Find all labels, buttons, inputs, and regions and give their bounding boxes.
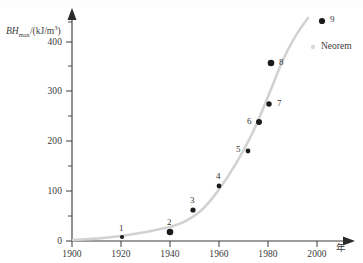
data-point-label-1: 1 <box>119 224 124 233</box>
data-point-9 <box>319 18 325 24</box>
data-point-3 <box>190 207 195 212</box>
data-point-8 <box>268 60 275 67</box>
y-axis-unit-prefix: /(kJ/m <box>30 26 54 36</box>
legend-marker-neorem <box>311 45 315 49</box>
data-point-label-8: 8 <box>279 58 284 67</box>
y-tick-label-0: 0 <box>34 236 62 246</box>
y-tick-label-200: 200 <box>34 136 62 146</box>
data-point-6 <box>256 119 262 125</box>
x-tick-label-1920: 1920 <box>105 249 137 259</box>
x-tick-label-2000: 2000 <box>301 249 333 259</box>
x-tick-label-1940: 1940 <box>154 249 186 259</box>
data-point-label-7: 7 <box>277 99 282 108</box>
data-point-label-9: 9 <box>330 15 335 24</box>
y-axis-unit-suffix: ) <box>57 26 60 36</box>
data-point-label-5: 5 <box>236 145 241 154</box>
data-point-7 <box>266 101 271 106</box>
data-point-5 <box>246 149 251 154</box>
x-tick-label-1900: 1900 <box>56 249 88 259</box>
y-axis-symbol: BH <box>6 26 19 36</box>
data-point-2 <box>167 229 174 236</box>
chart-figure: BHmax/(kJ/m3) 年 0 100 200 300 400 1900 1… <box>0 0 363 263</box>
y-tick-label-300: 300 <box>34 86 62 96</box>
data-point-4 <box>217 184 222 189</box>
x-tick-label-1960: 1960 <box>203 249 235 259</box>
data-point-label-3: 3 <box>190 196 195 205</box>
data-point-label-2: 2 <box>167 218 172 227</box>
data-point-label-6: 6 <box>247 117 252 126</box>
y-tick-label-400: 400 <box>34 37 62 47</box>
data-point-1 <box>120 235 124 239</box>
trend-curve <box>73 18 308 240</box>
y-axis-arrow-icon <box>68 8 77 20</box>
data-point-label-4: 4 <box>216 172 221 181</box>
x-tick-label-1980: 1980 <box>252 249 284 259</box>
y-axis-subscript: max <box>19 31 30 38</box>
y-tick-label-100: 100 <box>34 186 62 196</box>
x-axis-title: 年 <box>336 243 346 253</box>
annotation-neorem: Neorem <box>321 41 352 52</box>
